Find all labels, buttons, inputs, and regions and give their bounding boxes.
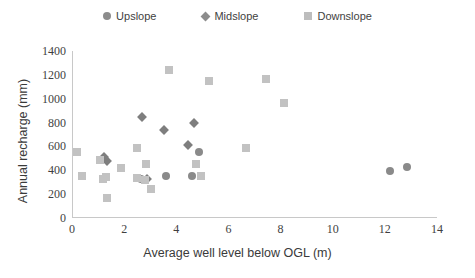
legend-label-upslope: Upslope	[116, 10, 156, 22]
y-tick-label-800: 800	[24, 115, 66, 130]
y-tick-label-200: 200	[24, 187, 66, 202]
data-point-downslope[interactable]	[133, 174, 141, 182]
data-point-upslope[interactable]	[195, 148, 203, 156]
y-tick-label-1200: 1200	[24, 67, 66, 82]
data-point-downslope[interactable]	[117, 164, 125, 172]
data-point-downslope[interactable]	[192, 160, 200, 168]
legend-item-downslope[interactable]: Downslope	[304, 10, 371, 22]
scatter-chart: Upslope Midslope Downslope 0200400600800…	[0, 0, 475, 278]
diamond-icon	[201, 11, 211, 21]
y-tick-label-1000: 1000	[24, 91, 66, 106]
x-tick-label-12: 12	[370, 222, 400, 237]
data-point-downslope[interactable]	[133, 144, 141, 152]
legend-item-midslope[interactable]: Midslope	[202, 10, 258, 22]
legend-label-midslope: Midslope	[214, 10, 258, 22]
data-point-midslope[interactable]	[189, 118, 199, 128]
data-point-midslope[interactable]	[183, 140, 193, 150]
y-tick-label-1400: 1400	[24, 44, 66, 59]
circle-icon	[103, 12, 111, 20]
chart-legend: Upslope Midslope Downslope	[0, 10, 475, 22]
data-point-downslope[interactable]	[141, 176, 149, 184]
x-tick-label-10: 10	[318, 222, 348, 237]
data-point-downslope[interactable]	[73, 148, 81, 156]
data-point-midslope[interactable]	[159, 125, 169, 135]
data-point-downslope[interactable]	[103, 194, 111, 202]
square-icon	[304, 12, 312, 20]
x-tick-label-6: 6	[213, 222, 243, 237]
data-point-downslope[interactable]	[197, 172, 205, 180]
x-tick-label-0: 0	[57, 222, 87, 237]
data-point-downslope[interactable]	[96, 156, 104, 164]
x-axis-title: Average well level below OGL (m)	[0, 246, 475, 260]
x-tick-label-8: 8	[266, 222, 296, 237]
y-tick-label-400: 400	[24, 163, 66, 178]
y-tick-label-600: 600	[24, 139, 66, 154]
y-axis-title: Annual recharge (mm)	[16, 56, 30, 226]
plot-area	[72, 51, 437, 218]
data-point-downslope[interactable]	[78, 172, 86, 180]
legend-item-upslope[interactable]: Upslope	[103, 10, 156, 22]
data-point-downslope[interactable]	[165, 66, 173, 74]
data-point-upslope[interactable]	[162, 172, 170, 180]
data-point-downslope[interactable]	[147, 185, 155, 193]
data-point-downslope[interactable]	[205, 77, 213, 85]
x-tick-label-2: 2	[109, 222, 139, 237]
legend-label-downslope: Downslope	[317, 10, 371, 22]
x-tick-label-4: 4	[161, 222, 191, 237]
data-point-downslope[interactable]	[262, 75, 270, 83]
x-tick-label-14: 14	[422, 222, 452, 237]
data-point-upslope[interactable]	[386, 167, 394, 175]
data-point-upslope[interactable]	[403, 163, 411, 171]
data-point-downslope[interactable]	[142, 160, 150, 168]
data-point-downslope[interactable]	[280, 99, 288, 107]
data-point-midslope[interactable]	[137, 112, 147, 122]
data-point-downslope[interactable]	[99, 175, 107, 183]
data-point-upslope[interactable]	[188, 172, 196, 180]
data-point-downslope[interactable]	[242, 144, 250, 152]
